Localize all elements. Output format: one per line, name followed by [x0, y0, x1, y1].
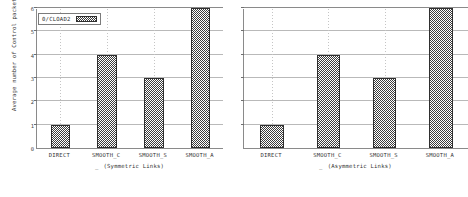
- bar-asymmetric-smooth_a[interactable]: [429, 8, 453, 148]
- x-label-symmetric-smooth_s: SMOOTH_S: [139, 152, 167, 158]
- x-label-asymmetric-smooth_c: SMOOTH_C: [313, 152, 341, 158]
- x-label-asymmetric-smooth_a: SMOOTH_A: [426, 152, 454, 158]
- bar-symmetric-smooth_a[interactable]: [191, 8, 211, 148]
- bar-asymmetric-direct[interactable]: [260, 125, 284, 148]
- tickmark-y-5: [34, 30, 37, 31]
- tickmark-y-1: [241, 124, 244, 125]
- x-label-asymmetric-direct: DIRECT: [261, 152, 282, 158]
- y-axis-tick-labels: 0123456: [22, 9, 34, 149]
- tickmark-y-2: [241, 100, 244, 101]
- x-label-asymmetric-smooth_s: SMOOTH_S: [370, 152, 398, 158]
- plot-area-asymmetric: [244, 9, 468, 148]
- tickmark-y-3: [241, 77, 244, 78]
- tickmark-y-3: [34, 77, 37, 78]
- bar-asymmetric-smooth_c[interactable]: [317, 55, 341, 148]
- tickmark-y-5: [241, 30, 244, 31]
- legend-swatch-icon: [76, 16, 97, 22]
- chart-panel-asymmetric: [243, 9, 468, 149]
- x-axis-labels-asymmetric: DIRECTSMOOTH_CSMOOTH_SSMOOTH_A: [243, 152, 468, 162]
- subtitle-dash: _: [95, 163, 99, 169]
- tickmark-y-4: [34, 54, 37, 55]
- subtitle-dash: _: [319, 163, 323, 169]
- tickmark-y-4: [241, 54, 244, 55]
- bar-symmetric-smooth_s[interactable]: [144, 78, 164, 148]
- panel-subtitle-symmetric: _(Symmetric Links): [95, 163, 164, 169]
- plot-area-symmetric: [37, 9, 223, 148]
- x-label-symmetric-smooth_c: SMOOTH_C: [92, 152, 120, 158]
- chart-panel-symmetric: [36, 9, 223, 149]
- x-label-symmetric-direct: DIRECT: [49, 152, 70, 158]
- subtitle-text: (Asymmetric Links): [328, 163, 392, 169]
- tickmark-y-1: [34, 124, 37, 125]
- chart-legend[interactable]: 0/CLOAD2: [38, 13, 101, 25]
- panel-subtitle-asymmetric: _(Asymmetric Links): [319, 163, 392, 169]
- bar-symmetric-smooth_c[interactable]: [97, 55, 117, 148]
- tickmark-y-2: [34, 100, 37, 101]
- bar-asymmetric-smooth_s[interactable]: [373, 78, 397, 148]
- tickmark-y-6: [241, 7, 244, 8]
- subtitle-text: (Symmetric Links): [103, 163, 164, 169]
- legend-label: 0/CLOAD2: [42, 16, 71, 22]
- x-label-symmetric-smooth_a: SMOOTH_A: [186, 152, 214, 158]
- tickmark-y-6: [34, 7, 37, 8]
- y-axis-title: Average number of Control packets per Ha…: [11, 0, 17, 111]
- bar-symmetric-direct[interactable]: [51, 125, 71, 148]
- x-axis-labels-symmetric: DIRECTSMOOTH_CSMOOTH_SSMOOTH_A: [36, 152, 223, 162]
- y-tick-0: 0: [31, 146, 34, 152]
